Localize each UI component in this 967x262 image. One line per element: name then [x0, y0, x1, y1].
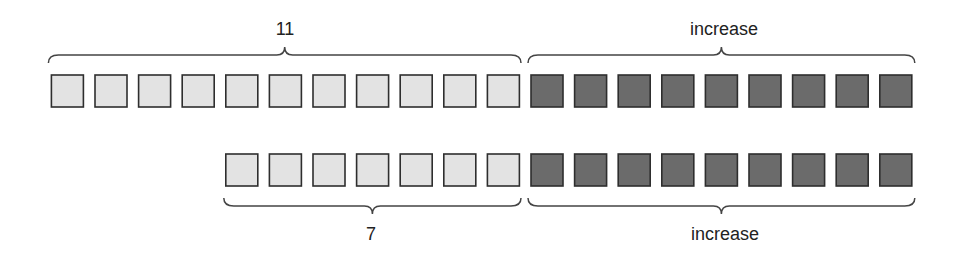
row1-light-square: [95, 75, 127, 107]
row1-light-square: [51, 75, 83, 107]
row1-light-count-label: 11: [276, 20, 295, 38]
row2-light-square: [269, 154, 301, 186]
row2-light-square: [313, 154, 345, 186]
row1-light-square: [400, 75, 432, 107]
row2-light-square: [487, 154, 519, 186]
row1-dark-square: [531, 75, 563, 107]
row2-light-bracket: [224, 198, 521, 214]
row1-light-square: [487, 75, 519, 107]
diagram-graphics: [0, 0, 967, 262]
row1-light-square: [182, 75, 214, 107]
row2-dark-square: [880, 154, 912, 186]
row1-light-square: [269, 75, 301, 107]
row1-light-bracket: [48, 47, 521, 63]
row2-dark-square: [836, 154, 868, 186]
row2-light-square: [226, 154, 258, 186]
row1-light-square: [313, 75, 345, 107]
row2-increase-label: increase: [691, 225, 759, 243]
row1-dark-square: [880, 75, 912, 107]
row1-dark-square: [705, 75, 737, 107]
row1-dark-square: [618, 75, 650, 107]
row1-light-square: [357, 75, 389, 107]
row2-light-square: [444, 154, 476, 186]
row2-dark-square: [662, 154, 694, 186]
row1-increase-label: increase: [690, 20, 758, 38]
row2-light-count-label: 7: [366, 225, 376, 243]
row2-light-square: [357, 154, 389, 186]
row1-dark-bracket: [528, 47, 915, 63]
row2-dark-square: [618, 154, 650, 186]
row2-dark-bracket: [528, 198, 915, 214]
row2-dark-square: [705, 154, 737, 186]
row2-dark-square: [749, 154, 781, 186]
row1-dark-square: [749, 75, 781, 107]
row1-dark-square: [793, 75, 825, 107]
row1-light-square: [444, 75, 476, 107]
row2-light-square: [400, 154, 432, 186]
block-diagram: 11 increase 7 increase: [0, 0, 967, 262]
row2-dark-square: [575, 154, 607, 186]
row1-dark-square: [575, 75, 607, 107]
row1-light-square: [139, 75, 171, 107]
row2-dark-square: [793, 154, 825, 186]
row1-light-square: [226, 75, 258, 107]
row1-dark-square: [662, 75, 694, 107]
row2-dark-square: [531, 154, 563, 186]
row1-dark-square: [836, 75, 868, 107]
